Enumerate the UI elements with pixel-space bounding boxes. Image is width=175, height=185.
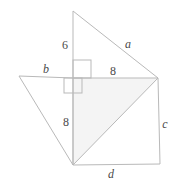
- label-side-d: d: [108, 168, 114, 180]
- right-angle-upper-icon: [73, 60, 91, 78]
- label-side-8-top: 8: [110, 65, 116, 77]
- label-side-b: b: [43, 63, 49, 75]
- label-side-8-left: 8: [63, 116, 69, 128]
- geometry-figure: 6 a b 8 8 c d: [0, 0, 175, 185]
- label-side-6: 6: [62, 39, 68, 51]
- figure-canvas: [0, 0, 175, 185]
- label-side-a: a: [125, 38, 131, 50]
- label-side-c: c: [162, 118, 167, 130]
